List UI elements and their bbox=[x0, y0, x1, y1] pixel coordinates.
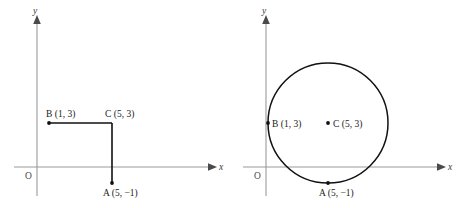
y-axis-label: y bbox=[261, 6, 267, 16]
point-a-marker bbox=[110, 181, 114, 185]
point-b-label: B (1, 3) bbox=[272, 119, 301, 130]
y-axis-arrowhead bbox=[33, 15, 41, 24]
point-a-label: A (5, −1) bbox=[103, 188, 138, 199]
x-axis-arrowhead bbox=[208, 163, 217, 171]
point-a-marker bbox=[326, 181, 330, 185]
point-b-label: B (1, 3) bbox=[46, 109, 75, 120]
point-c-label: C (5, 3) bbox=[333, 119, 362, 130]
coordinate-plane-left: x y O B (1, 3) C (5, 3) A (5, −1) bbox=[0, 0, 232, 208]
diagram-panel-left: x y O B (1, 3) C (5, 3) A (5, −1) bbox=[0, 0, 232, 208]
point-b-marker bbox=[47, 121, 51, 125]
y-axis-label: y bbox=[32, 6, 38, 16]
point-c-marker bbox=[326, 121, 330, 125]
diagram-panel-right: x y O B (1, 3) C (5, 3) A (5, −1) bbox=[232, 0, 464, 208]
y-axis-arrowhead bbox=[262, 15, 270, 24]
point-b-marker bbox=[266, 121, 270, 125]
x-axis-label: x bbox=[218, 162, 224, 172]
point-a-label: A (5, −1) bbox=[319, 188, 354, 199]
coordinate-plane-right: x y O B (1, 3) C (5, 3) A (5, −1) bbox=[232, 0, 464, 208]
x-axis-label: x bbox=[447, 162, 453, 172]
origin-label: O bbox=[254, 171, 261, 181]
figure-root: x y O B (1, 3) C (5, 3) A (5, −1) bbox=[0, 0, 464, 208]
origin-label: O bbox=[25, 171, 32, 181]
x-axis-arrowhead bbox=[437, 163, 446, 171]
point-c-label: C (5, 3) bbox=[105, 109, 134, 120]
